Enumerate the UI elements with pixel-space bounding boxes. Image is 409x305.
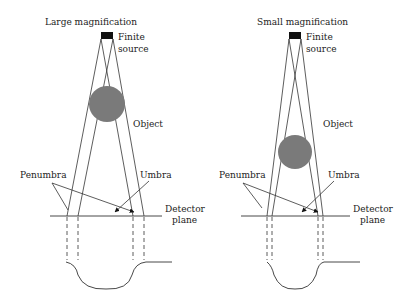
finite-source bbox=[289, 32, 301, 39]
panel-title: Large magnification bbox=[45, 17, 137, 27]
panel-small-magnification: Small magnification Finite source Object… bbox=[219, 17, 394, 289]
source-label: Finite bbox=[306, 32, 333, 42]
intensity-profile bbox=[66, 262, 172, 289]
umbra-label: Umbra bbox=[328, 170, 360, 180]
ray bbox=[289, 39, 318, 216]
ray bbox=[267, 39, 289, 216]
source-label: Finite bbox=[118, 32, 145, 42]
penumbra-label: Penumbra bbox=[20, 170, 67, 180]
intensity-profile bbox=[267, 262, 360, 289]
source-label: source bbox=[118, 44, 149, 54]
detector-label: plane bbox=[360, 215, 385, 225]
penumbra-pointer bbox=[52, 183, 68, 210]
object bbox=[278, 135, 312, 169]
object bbox=[89, 86, 125, 122]
detector-label: plane bbox=[172, 215, 197, 225]
penumbra-arrow bbox=[52, 183, 134, 212]
umbra-arrow bbox=[115, 181, 149, 212]
panel-large-magnification: Large magnification Finite source Object… bbox=[20, 17, 206, 289]
umbra-arrow bbox=[302, 181, 334, 212]
penumbra-label: Penumbra bbox=[219, 170, 266, 180]
finite-source bbox=[101, 32, 113, 39]
panel-title: Small magnification bbox=[257, 17, 348, 27]
source-label: source bbox=[306, 44, 337, 54]
ray bbox=[272, 39, 301, 216]
umbra-label: Umbra bbox=[140, 170, 172, 180]
detector-label: Detector bbox=[353, 204, 394, 214]
object-label: Object bbox=[133, 119, 163, 129]
ray bbox=[301, 39, 323, 216]
detector-label: Detector bbox=[165, 204, 206, 214]
diagram: Large magnification Finite source Object… bbox=[0, 0, 409, 305]
object-label: Object bbox=[323, 119, 353, 129]
